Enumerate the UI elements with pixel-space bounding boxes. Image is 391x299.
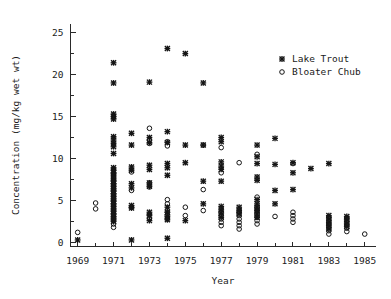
data-point-lake-trout xyxy=(218,139,224,145)
data-point-lake-trout xyxy=(164,172,170,178)
x-tick-label: 1975 xyxy=(174,255,197,266)
x-axis-title: Year xyxy=(212,275,235,286)
x-tick-label: 1981 xyxy=(282,255,305,266)
y-tick-label: 0 xyxy=(58,237,64,248)
data-point-lake-trout xyxy=(200,201,206,207)
x-tick-label: 1971 xyxy=(102,255,125,266)
data-point-lake-trout xyxy=(290,170,296,176)
data-point-lake-trout xyxy=(254,161,260,167)
y-tick-label: 15 xyxy=(52,111,63,122)
data-point-bloater-chub xyxy=(147,126,152,131)
data-point-lake-trout xyxy=(75,237,81,243)
chart-legend: Lake TroutBloater Chub xyxy=(279,53,361,77)
data-point-bloater-chub xyxy=(237,160,242,165)
data-point-lake-trout xyxy=(129,142,135,148)
data-point-lake-trout xyxy=(182,218,188,224)
data-point-lake-trout xyxy=(111,144,117,150)
data-point-bloater-chub xyxy=(201,208,206,213)
data-point-bloater-chub xyxy=(291,220,296,225)
data-point-lake-trout xyxy=(147,79,153,85)
data-point-lake-trout xyxy=(164,235,170,241)
data-point-lake-trout xyxy=(164,129,170,135)
data-point-lake-trout xyxy=(182,142,188,148)
data-point-lake-trout xyxy=(129,237,135,243)
data-point-lake-trout xyxy=(200,80,206,86)
data-point-lake-trout xyxy=(182,160,188,166)
data-point-lake-trout xyxy=(164,46,170,52)
data-point-lake-trout xyxy=(272,161,278,167)
legend-marker-x-icon xyxy=(279,56,285,62)
x-tick-label: 1983 xyxy=(317,255,340,266)
x-tick-label: 1973 xyxy=(138,255,161,266)
y-tick-label: 20 xyxy=(52,69,64,80)
data-point-bloater-chub xyxy=(344,229,349,234)
x-tick-label: 1977 xyxy=(210,255,233,266)
data-point-lake-trout xyxy=(182,51,188,57)
x-tick-label: 1979 xyxy=(246,255,269,266)
data-point-lake-trout xyxy=(164,165,170,171)
y-tick-label: 10 xyxy=(52,153,64,164)
y-axis-title: Concentration (mg/kg wet wt) xyxy=(10,55,21,215)
data-point-lake-trout xyxy=(326,161,332,167)
data-point-bloater-chub xyxy=(219,223,224,228)
data-point-lake-trout xyxy=(111,80,117,86)
x-tick-label: 1969 xyxy=(66,255,89,266)
data-point-bloater-chub xyxy=(183,205,188,210)
data-point-lake-trout xyxy=(111,151,117,157)
plot-canvas: 0510152025196919711973197519771979198119… xyxy=(0,0,391,299)
data-point-lake-trout xyxy=(290,187,296,193)
data-point-lake-trout xyxy=(308,166,314,172)
scatter-plot-figure: 0510152025196919711973197519771979198119… xyxy=(0,0,391,299)
data-point-bloater-chub xyxy=(362,232,367,237)
data-point-lake-trout xyxy=(272,135,278,141)
data-point-lake-trout xyxy=(254,142,260,148)
data-point-bloater-chub xyxy=(255,222,260,227)
data-point-bloater-chub xyxy=(75,230,80,235)
data-point-bloater-chub xyxy=(273,214,278,219)
data-point-bloater-chub xyxy=(111,225,116,230)
legend-item-bloater-chub: Bloater Chub xyxy=(280,66,361,77)
data-point-lake-trout xyxy=(200,178,206,184)
data-point-lake-trout xyxy=(218,178,224,184)
data-point-lake-trout xyxy=(111,60,117,66)
legend-label: Bloater Chub xyxy=(292,66,361,77)
legend-label: Lake Trout xyxy=(292,53,349,64)
data-point-bloater-chub xyxy=(327,232,332,237)
data-point-lake-trout xyxy=(272,201,278,207)
legend-marker-o-icon xyxy=(280,70,285,75)
legend-item-lake-trout: Lake Trout xyxy=(279,53,349,64)
axis-titles: YearConcentration (mg/kg wet wt) xyxy=(10,55,235,286)
data-point-lake-trout xyxy=(111,116,117,122)
data-point-lake-trout xyxy=(254,177,260,183)
data-point-bloater-chub xyxy=(219,145,224,150)
data-point-bloater-chub xyxy=(93,207,98,212)
data-point-bloater-chub xyxy=(237,227,242,232)
x-tick-label: 1985 xyxy=(353,255,376,266)
data-point-bloater-chub xyxy=(93,201,98,206)
data-point-bloater-chub xyxy=(201,187,206,192)
y-tick-label: 5 xyxy=(58,195,64,206)
data-point-bloater-chub xyxy=(183,213,188,218)
y-tick-label: 25 xyxy=(52,27,63,38)
data-point-lake-trout xyxy=(272,188,278,194)
data-point-lake-trout xyxy=(129,130,135,136)
data-point-lake-trout xyxy=(147,167,153,173)
